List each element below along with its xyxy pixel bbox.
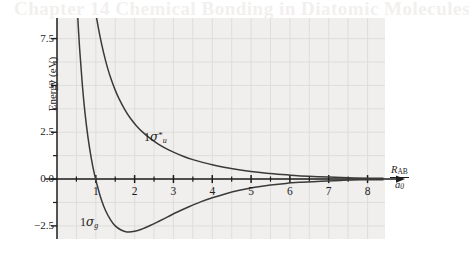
- x-tick-label: 5: [242, 185, 260, 197]
- x-tick-label: 1: [87, 185, 105, 197]
- bonding-curve-label: 1σg: [80, 215, 98, 230]
- antibonding-curve-label: 1σ*u: [144, 130, 167, 145]
- x-tick-label: 4: [203, 185, 221, 197]
- x-tick-label: 7: [320, 185, 338, 197]
- x-tick-label: 2: [126, 185, 144, 197]
- x-axis-label-numerator: RAB: [390, 164, 409, 178]
- x-axis-label-denominator: a0: [390, 178, 409, 191]
- x-tick-label: 8: [359, 185, 377, 197]
- y-axis-label: Energy (eV): [46, 29, 58, 139]
- x-tick-label: 3: [164, 185, 182, 197]
- x-axis-label: RAB a0: [390, 164, 409, 191]
- x-tick-label: 6: [281, 185, 299, 197]
